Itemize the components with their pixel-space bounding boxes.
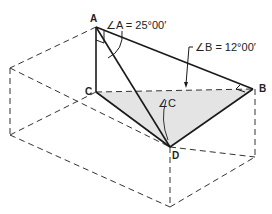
point-label-c: C xyxy=(85,87,92,97)
diagram-canvas: A B C D ∠A = 25°00′ ∠B = 12°00′ ∠C xyxy=(0,0,272,214)
geometry-figure xyxy=(0,0,272,214)
point-label-b: B xyxy=(259,84,266,94)
point-label-d: D xyxy=(172,151,179,161)
point-label-a: A xyxy=(90,14,97,24)
angle-b-label: ∠B = 12°00′ xyxy=(195,42,256,53)
angle-c-label: ∠C xyxy=(158,98,176,109)
angle-a-label: ∠A = 25°00′ xyxy=(106,20,166,31)
